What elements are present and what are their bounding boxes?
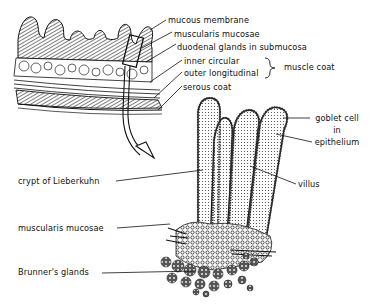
- label-outer-longitudinal: outer longitudinal: [184, 69, 259, 78]
- label-muscularis-mucosae-upper: muscularis mucosae: [174, 30, 260, 39]
- label-inner-circular: inner circular: [184, 57, 239, 66]
- villi-detail: [161, 98, 287, 297]
- label-goblet-cell: goblet cell: [308, 114, 366, 123]
- label-muscle-coat: muscle coat: [284, 63, 335, 72]
- label-serous-coat: serous coat: [183, 83, 231, 92]
- label-goblet-in: in: [308, 126, 366, 135]
- intestinal-wall-section: [14, 17, 162, 114]
- label-brunners-glands: Brunner's glands: [18, 268, 89, 277]
- label-villus: villus: [298, 180, 320, 189]
- label-duodenal-glands: duodenal glands in submucosa: [177, 43, 307, 52]
- label-muscularis-mucosae-detail: muscularis mucosae: [18, 224, 104, 233]
- label-crypt-of-lieberkuhn: crypt of Lieberkuhn: [18, 177, 100, 186]
- label-mucous-membrane: mucous membrane: [168, 16, 249, 25]
- label-epithelium: epithelium: [308, 138, 366, 147]
